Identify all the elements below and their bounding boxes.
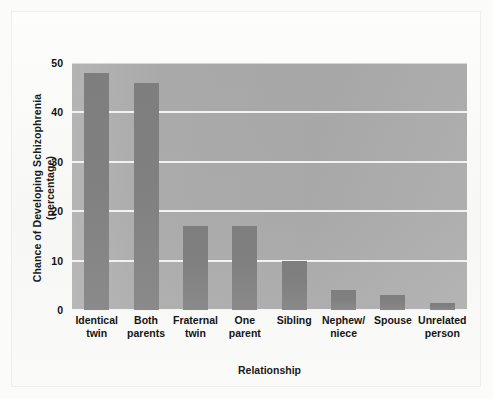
gridline [72,111,467,113]
gridline [72,62,467,64]
y-tick-label: 10 [37,255,63,267]
x-tick-label: Unrelated person [414,314,471,340]
y-tick-label: 50 [37,57,63,69]
chart-figure: Chance of Developing Schizophrenia (perc… [0,0,493,399]
gridline [72,309,467,311]
gridline [72,161,467,163]
y-tick-label: 40 [37,106,63,118]
y-tick-label: 20 [37,205,63,217]
y-axis-title: Chance of Developing Schizophrenia (perc… [31,68,57,308]
y-tick-label: 30 [37,156,63,168]
plot-area [72,63,467,310]
x-axis-title: Relationship [72,364,467,376]
bar [380,295,405,310]
gridline [72,260,467,262]
gridline [72,210,467,212]
bar [183,226,208,310]
x-axis-ticks: Identical twinBoth parentsFraternal twin… [72,314,467,354]
bar [84,73,109,310]
bar [331,290,356,310]
bar [430,303,455,310]
bar [134,83,159,310]
y-tick-label: 0 [37,304,63,316]
bar [282,261,307,310]
bar [232,226,257,310]
